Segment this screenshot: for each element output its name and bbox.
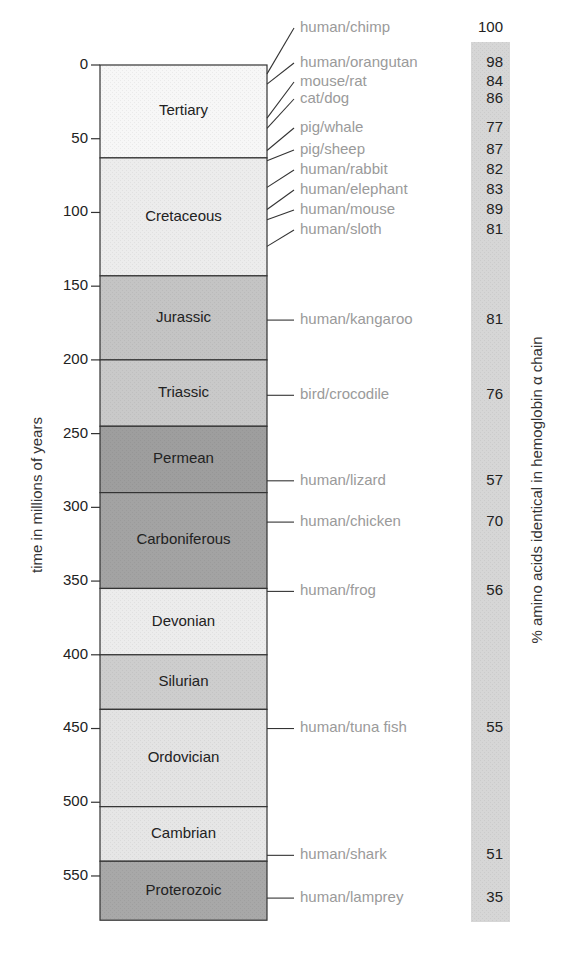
pair-leader-line [267, 128, 294, 151]
species-pair-label: bird/crocodile [300, 385, 389, 402]
percent-identity-value: 77 [486, 118, 503, 135]
period-label: Permean [153, 449, 214, 466]
percent-axis-title: % amino acids identical in hemoglobin α … [528, 336, 545, 643]
pair-leader-line [267, 82, 294, 118]
period-label: Triassic [158, 383, 210, 400]
species-pair-label: human/tuna fish [300, 718, 407, 735]
y-tick-label: 550 [63, 866, 88, 883]
y-tick-label: 200 [63, 350, 88, 367]
species-pair-label: human/chimp [300, 18, 390, 35]
percent-identity-value: 35 [486, 888, 503, 905]
pair-leader-line [267, 99, 294, 128]
geologic-timescale-chart: TertiaryCretaceousJurassicTriassicPermea… [0, 0, 574, 968]
percent-identity-value: 86 [486, 89, 503, 106]
period-label: Carboniferous [136, 530, 230, 547]
percent-identity-value: 51 [486, 845, 503, 862]
percent-identity-value: 56 [486, 581, 503, 598]
period-label: Cretaceous [145, 207, 222, 224]
y-tick-label: 150 [63, 276, 88, 293]
species-pair-label: human/mouse [300, 200, 395, 217]
percent-identity-value: 83 [486, 180, 503, 197]
pair-leader-line [267, 190, 294, 210]
percent-identity-value: 57 [486, 471, 503, 488]
pair-leader-line [267, 150, 294, 161]
species-pair-label: cat/dog [300, 89, 349, 106]
percent-identity-value: 100 [478, 18, 503, 35]
y-tick-label: 250 [63, 424, 88, 441]
y-tick-label: 350 [63, 571, 88, 588]
percent-identity-value: 76 [486, 385, 503, 402]
y-tick-label: 400 [63, 645, 88, 662]
percent-identity-value: 82 [486, 160, 503, 177]
y-tick-label: 450 [63, 718, 88, 735]
species-pair-label: mouse/rat [300, 72, 368, 89]
period-column: TertiaryCretaceousJurassicTriassicPermea… [100, 65, 267, 920]
species-pair-label: human/orangutan [300, 53, 418, 70]
species-pair-label: human/lamprey [300, 888, 404, 905]
y-tick-label: 50 [71, 129, 88, 146]
percent-identity-value: 81 [486, 310, 503, 327]
species-pair-label: human/lizard [300, 471, 386, 488]
species-pair-label: human/sloth [300, 220, 382, 237]
y-tick-label: 100 [63, 202, 88, 219]
species-pair-label: human/elephant [300, 180, 408, 197]
y-axis-title: time in millions of years [28, 417, 45, 573]
percent-identity-value: 81 [486, 220, 503, 237]
percent-identity-value: 89 [486, 200, 503, 217]
species-pair-label: pig/whale [300, 118, 363, 135]
species-pair-label: human/frog [300, 581, 376, 598]
period-label: Tertiary [159, 101, 209, 118]
period-label: Silurian [158, 672, 208, 689]
species-pair-labels: human/chimp100human/orangutan98mouse/rat… [267, 18, 503, 905]
species-pair-label: pig/sheep [300, 140, 365, 157]
percent-identity-value: 55 [486, 718, 503, 735]
species-pair-label: human/rabbit [300, 160, 388, 177]
pair-leader-line [267, 230, 294, 246]
y-tick-label: 500 [63, 792, 88, 809]
species-pair-label: human/kangaroo [300, 310, 413, 327]
pair-leader-line [267, 28, 294, 74]
percent-identity-value: 98 [486, 53, 503, 70]
species-pair-label: human/chicken [300, 512, 401, 529]
period-label: Proterozoic [146, 881, 222, 898]
percent-identity-value: 84 [486, 72, 503, 89]
percent-identity-value: 70 [486, 512, 503, 529]
period-label: Jurassic [156, 308, 212, 325]
pair-leader-line [267, 170, 294, 187]
y-tick-label: 0 [80, 55, 88, 72]
period-label: Cambrian [151, 824, 216, 841]
period-label: Devonian [152, 612, 215, 629]
y-tick-label: 300 [63, 497, 88, 514]
y-axis-ticks: 050100150200250300350400450500550 [63, 55, 100, 883]
percent-identity-value: 87 [486, 140, 503, 157]
species-pair-label: human/shark [300, 845, 387, 862]
period-label: Ordovician [148, 748, 220, 765]
pair-leader-line [267, 210, 294, 220]
